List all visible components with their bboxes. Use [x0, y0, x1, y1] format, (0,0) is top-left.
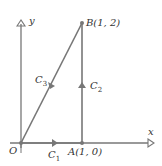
point-a [80, 141, 84, 145]
y-axis-label: y [29, 16, 35, 26]
x-axis-arrow-icon [148, 139, 154, 147]
c2-label: C2 [90, 81, 102, 94]
origin-label: O [9, 146, 17, 156]
c3-label: C3 [35, 75, 47, 88]
point-b [80, 21, 84, 25]
c2-direction-arrow-icon [78, 82, 86, 88]
c1-label: C1 [48, 150, 60, 163]
diagram-canvas [0, 0, 162, 166]
point-b-label: B(1, 2) [86, 18, 120, 28]
curve-c3 [21, 23, 82, 143]
c1-direction-arrow-icon [52, 139, 58, 147]
x-axis-label: x [148, 127, 154, 137]
point-a-label: A(1, 0) [68, 147, 102, 157]
